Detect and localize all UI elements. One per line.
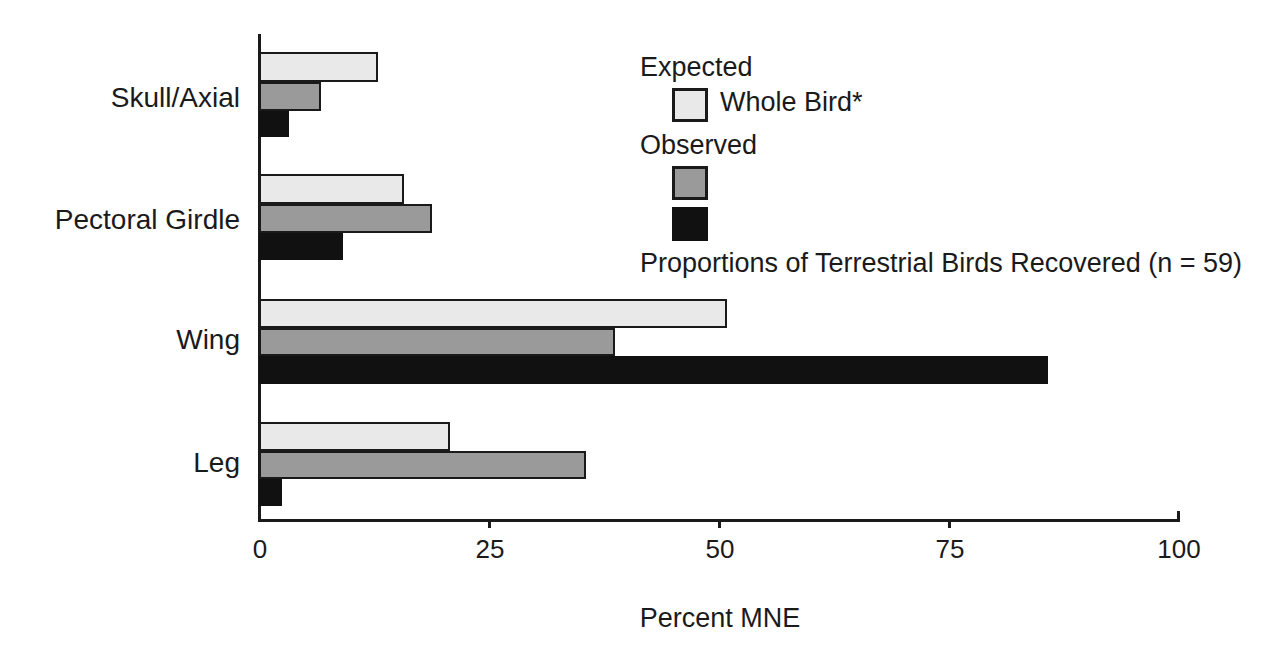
x-tick-100 [1177, 511, 1180, 520]
bar-wing-expected [259, 299, 727, 328]
legend-swatch-whole-bird [672, 88, 708, 122]
bar-wing-observed-black [259, 356, 1048, 384]
x-tick-label-50: 50 [680, 534, 760, 564]
x-tick-label-0: 0 [220, 534, 300, 564]
x-axis-title: Percent MNE [520, 603, 920, 633]
bar-pectoral-girdle-observed-black [259, 233, 343, 260]
legend-header-expected: Expected [640, 52, 753, 83]
category-label-skull-axial: Skull/Axial [0, 82, 240, 114]
x-tick-75 [948, 519, 951, 528]
bar-pectoral-girdle-observed-gray [259, 204, 432, 233]
bar-skull-axial-observed-black [259, 111, 289, 137]
x-tick-label-100: 100 [1139, 534, 1219, 564]
legend-swatch-observed-black [672, 207, 708, 241]
bar-skull-axial-observed-gray [259, 82, 321, 111]
bar-pectoral-girdle-expected [259, 174, 404, 204]
x-tick-label-75: 75 [910, 534, 990, 564]
bar-chart: 0 25 50 75 100 Skull/Axial Pectoral Gird… [0, 0, 1281, 666]
category-label-pectoral-girdle: Pectoral Girdle [0, 204, 240, 236]
x-tick-0 [258, 511, 261, 520]
x-tick-50 [718, 519, 721, 528]
category-label-wing: Wing [0, 324, 240, 356]
bar-leg-observed-gray [259, 451, 586, 479]
legend-caption: Proportions of Terrestrial Birds Recover… [640, 248, 1242, 279]
legend-label-whole-bird: Whole Bird* [720, 87, 863, 118]
category-label-leg: Leg [0, 447, 240, 479]
bar-wing-observed-gray [259, 328, 615, 356]
bar-leg-observed-black [259, 479, 282, 506]
x-tick-label-25: 25 [450, 534, 530, 564]
bar-leg-expected [259, 422, 450, 451]
x-tick-25 [488, 519, 491, 528]
legend-header-observed: Observed [640, 130, 757, 161]
bar-skull-axial-expected [259, 52, 378, 82]
legend-swatch-observed-gray [672, 166, 708, 200]
